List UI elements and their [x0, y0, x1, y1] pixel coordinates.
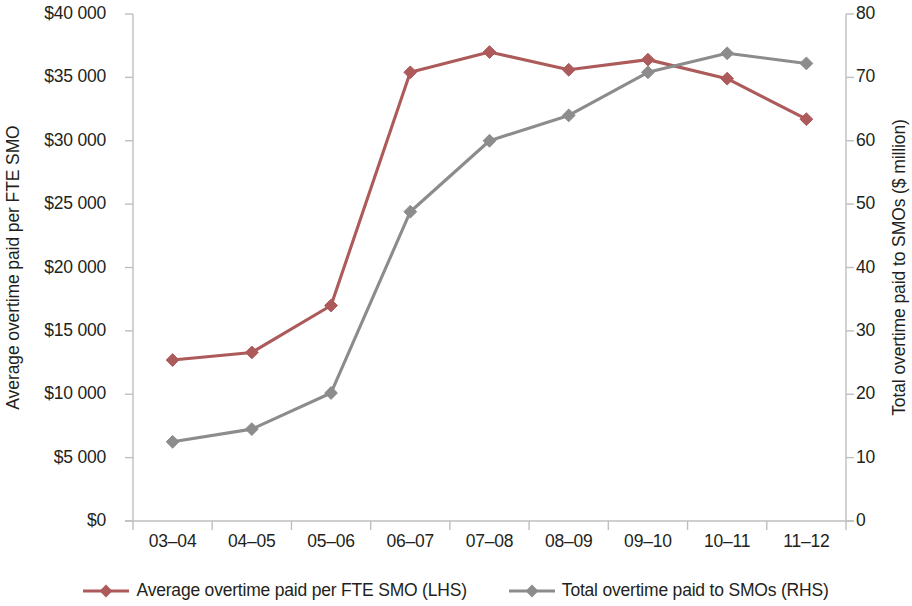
axis-lines	[125, 14, 854, 530]
data-point-0-3	[404, 66, 417, 79]
data-point-0-1	[245, 346, 258, 359]
legend-label-1: Total overtime paid to SMOs (RHS)	[562, 580, 829, 601]
data-point-0-6	[642, 53, 655, 66]
data-point-1-6	[642, 66, 655, 79]
data-point-1-2	[325, 387, 338, 400]
data-point-0-8	[800, 113, 813, 126]
data-point-0-2	[325, 299, 338, 312]
data-point-0-5	[562, 63, 575, 76]
series-layer	[166, 46, 813, 449]
chart-legend: Average overtime paid per FTE SMO (LHS)T…	[0, 575, 912, 606]
data-point-0-0	[166, 354, 179, 367]
data-point-1-7	[721, 47, 734, 60]
data-point-0-4	[483, 46, 496, 59]
data-point-1-8	[800, 57, 813, 70]
data-point-1-1	[245, 423, 258, 436]
data-point-1-0	[166, 435, 179, 448]
legend-label-0: Average overtime paid per FTE SMO (LHS)	[136, 580, 466, 601]
legend-item-0[interactable]: Average overtime paid per FTE SMO (LHS)	[83, 580, 466, 601]
series-lhs	[166, 46, 813, 367]
legend-marker-icon-0	[83, 583, 129, 599]
plot-area	[0, 0, 912, 606]
data-point-1-5	[562, 109, 575, 122]
data-point-0-7	[721, 72, 734, 85]
legend-marker-icon-1	[509, 583, 555, 599]
chart-container: Average overtime paid per FTE SMO Total …	[0, 0, 912, 606]
series-rhs	[166, 47, 813, 448]
legend-item-1[interactable]: Total overtime paid to SMOs (RHS)	[509, 580, 829, 601]
